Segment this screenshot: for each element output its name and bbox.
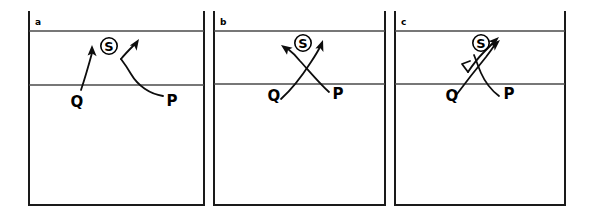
panel-c-q-label: Q [446,87,459,105]
diagram-canvas: a S Q P b [0,0,592,217]
panel-label-b: b [220,17,227,27]
panel-a-arrow-p-shaft [121,45,134,59]
panel-b-arrow-q-shaft [281,47,320,99]
panel-b-p-label: P [333,85,344,103]
figure-three-panel-diagram: a S Q P b [0,0,592,217]
panel-a-frame [29,12,204,205]
panel-b: b S Q P [214,12,385,205]
panel-b-q-label: Q [268,87,281,105]
panel-label-a: a [35,17,41,27]
panel-c-s-letter: S [476,36,485,51]
panel-a: a S Q P [29,12,204,205]
panel-c: c S Q P [395,12,565,205]
panel-b-arrow-q-head [315,40,323,52]
panel-a-s-letter: S [104,39,113,54]
panel-a-arrow-p-tail [121,59,163,96]
panel-b-arrow-p-head [281,45,293,55]
panel-a-q-label: Q [71,93,84,111]
panel-c-p-label: P [504,85,515,103]
panel-a-p-label: P [167,92,178,110]
panel-c-arrow-p-tail [474,55,499,96]
panel-c-source-symbol: S [473,35,489,51]
panel-label-c: c [401,17,406,27]
panel-b-source-symbol: S [295,35,311,51]
panel-a-source-symbol: S [101,38,117,54]
panel-b-s-letter: S [298,36,307,51]
